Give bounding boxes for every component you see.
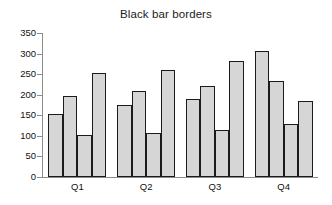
y-tick-mark — [37, 136, 42, 137]
bar — [200, 86, 215, 177]
plot-area — [43, 33, 318, 177]
bar — [92, 73, 107, 177]
bar — [77, 135, 92, 177]
y-tick-label-wrap: 150 — [0, 110, 36, 120]
x-axis-label: Q2 — [112, 182, 181, 192]
bar — [255, 51, 270, 177]
bar — [63, 96, 78, 177]
y-tick-mark — [37, 115, 42, 116]
bar — [284, 124, 299, 177]
y-tick-label: 100 — [2, 131, 36, 141]
y-tick-label: 50 — [2, 151, 36, 161]
bar — [132, 91, 147, 177]
y-tick-mark — [37, 33, 42, 34]
y-tick-label-wrap: 200 — [0, 90, 36, 100]
y-tick-label-wrap: 0 — [0, 172, 36, 182]
bar — [186, 99, 201, 177]
y-tick-mark — [37, 74, 42, 75]
x-axis-label: Q3 — [181, 182, 250, 192]
y-tick-label-wrap: 250 — [0, 69, 36, 79]
bar — [117, 105, 132, 177]
x-axis-line — [43, 177, 318, 178]
y-tick-mark — [37, 156, 42, 157]
y-tick-label: 150 — [2, 110, 36, 120]
bar — [298, 101, 313, 177]
bar — [48, 114, 63, 177]
bar — [215, 130, 230, 177]
x-axis-label: Q4 — [249, 182, 318, 192]
y-tick-mark — [37, 95, 42, 96]
bar — [161, 70, 176, 177]
y-tick-label-wrap: 100 — [0, 131, 36, 141]
chart-title: Black bar borders — [0, 8, 332, 20]
y-tick-label-wrap: 350 — [0, 28, 36, 38]
y-tick-label: 300 — [2, 49, 36, 59]
bar — [229, 61, 244, 177]
y-tick-mark — [37, 177, 42, 178]
y-tick-label-wrap: 300 — [0, 49, 36, 59]
x-axis-label: Q1 — [43, 182, 112, 192]
bar-chart: Black bar borders 050100150200250300350 … — [0, 0, 332, 205]
y-tick-label: 200 — [2, 90, 36, 100]
y-tick-mark — [37, 54, 42, 55]
y-tick-label: 250 — [2, 69, 36, 79]
y-tick-label: 350 — [2, 28, 36, 38]
y-tick-label-wrap: 50 — [0, 151, 36, 161]
bar — [146, 133, 161, 177]
y-tick-label: 0 — [2, 172, 36, 182]
bar — [269, 81, 284, 177]
